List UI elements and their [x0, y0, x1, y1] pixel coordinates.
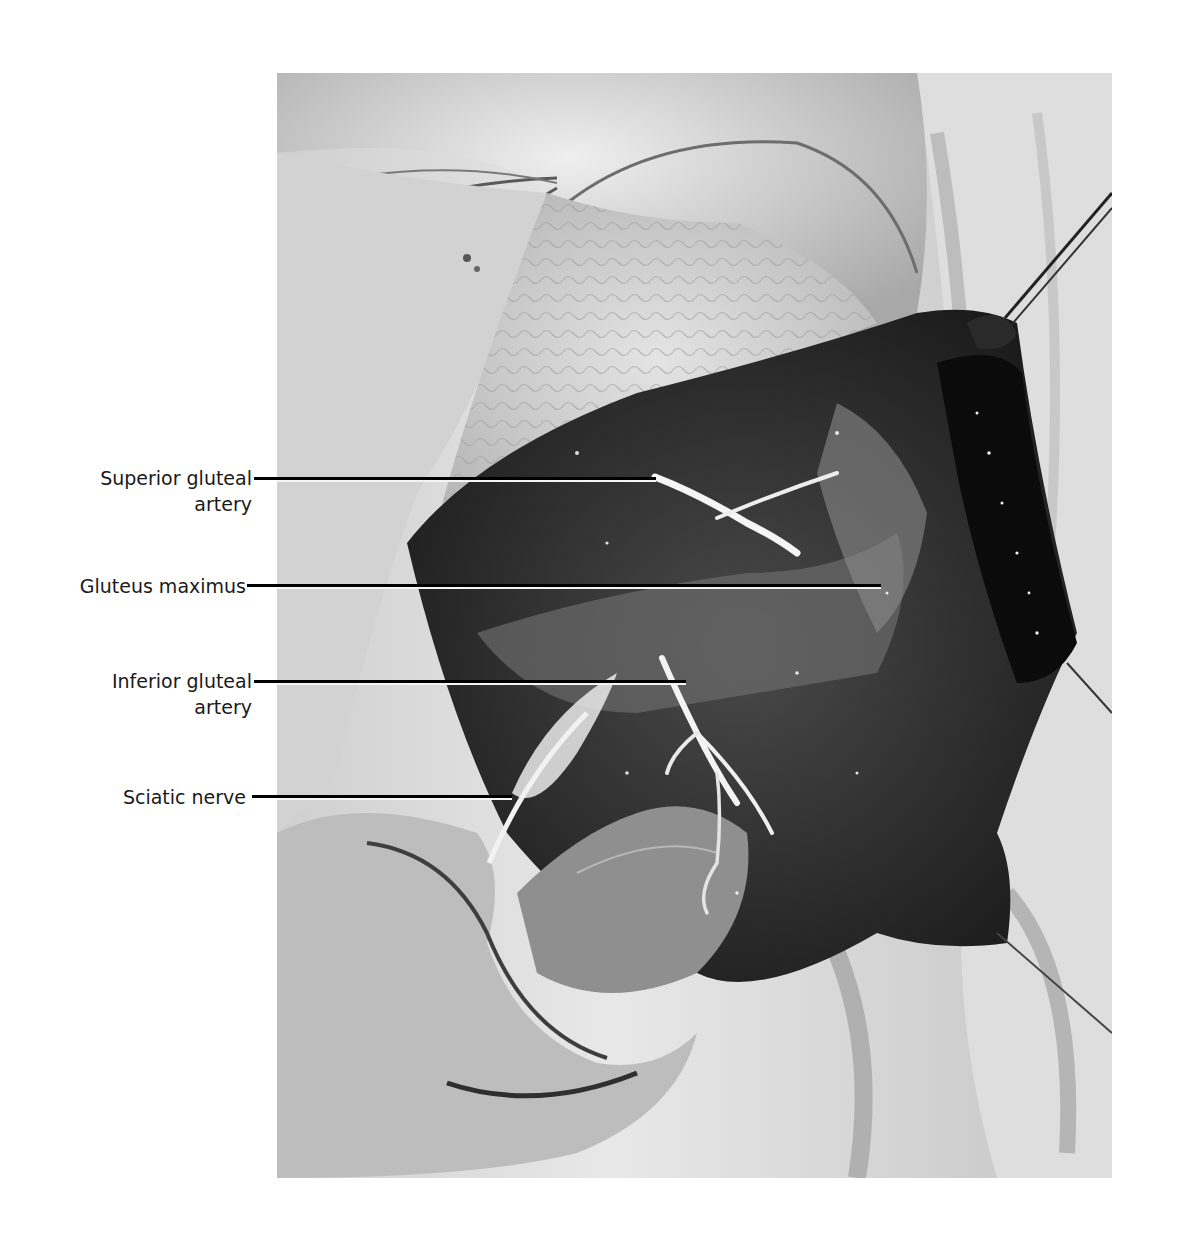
leader-line-superior-gluteal-artery	[254, 477, 656, 481]
leader-line-highlight	[277, 683, 686, 685]
label-line-1: Gluteus maximus	[80, 573, 246, 599]
leader-line-gluteus-maximus	[247, 584, 881, 588]
label-line-2: artery	[112, 694, 252, 720]
anatomy-figure: Superior gluteal artery Gluteus maximus …	[0, 0, 1179, 1241]
dissection-photo-illustration	[277, 73, 1112, 1178]
leader-line-highlight	[277, 798, 512, 800]
dissection-photograph	[277, 73, 1112, 1178]
label-line-1: Inferior gluteal	[112, 668, 252, 694]
label-gluteus-maximus: Gluteus maximus	[80, 573, 246, 599]
leader-line-inferior-gluteal-artery	[254, 680, 686, 684]
label-inferior-gluteal-artery: Inferior gluteal artery	[112, 668, 252, 720]
label-superior-gluteal-artery: Superior gluteal artery	[100, 465, 252, 517]
leader-line-sciatic-nerve	[252, 795, 512, 799]
label-line-1: Superior gluteal	[100, 465, 252, 491]
label-sciatic-nerve: Sciatic nerve	[123, 784, 246, 810]
label-line-1: Sciatic nerve	[123, 784, 246, 810]
leader-line-highlight	[277, 480, 656, 482]
label-line-2: artery	[100, 491, 252, 517]
leader-line-highlight	[277, 587, 881, 589]
